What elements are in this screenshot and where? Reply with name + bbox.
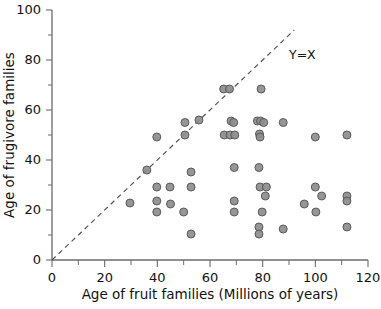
scatter-point [312, 208, 320, 216]
scatter-point [257, 85, 265, 93]
x-tick-label: 20 [96, 270, 113, 285]
scatter-point [187, 230, 195, 238]
x-tick-label: 100 [303, 270, 328, 285]
scatter-point [166, 183, 174, 191]
scatter-point [300, 200, 308, 208]
scatter-point [262, 183, 270, 191]
scatter-point [153, 183, 161, 191]
scatter-point [153, 208, 161, 216]
scatter-point [153, 197, 161, 205]
scatter-point [187, 168, 195, 176]
scatter-point [343, 223, 351, 231]
scatter-point [167, 200, 175, 208]
x-tick-label: 40 [149, 270, 166, 285]
x-tick-label: 120 [356, 270, 381, 285]
scatter-point [230, 164, 238, 172]
scatter-point [225, 85, 233, 93]
figure-background [0, 0, 381, 309]
scatter-point [187, 183, 195, 191]
scatter-point [195, 116, 203, 124]
scatter-point [311, 183, 319, 191]
x-axis-title: Age of fruit families (Millions of years… [82, 286, 339, 302]
scatter-point [256, 133, 264, 141]
scatter-point [258, 208, 266, 216]
scatter-point [181, 119, 189, 127]
scatter-point [126, 199, 134, 207]
scatter-point [230, 197, 238, 205]
scatter-point [231, 131, 239, 139]
scatter-point [279, 225, 287, 233]
y-tick-label: 40 [24, 152, 41, 167]
scatter-point [255, 164, 263, 172]
scatter-point [230, 208, 238, 216]
scatter-point [260, 119, 268, 127]
scatter-point [343, 197, 351, 205]
y-axis-title: Age of frugivore families [1, 52, 17, 218]
scatter-point [261, 192, 269, 200]
scatter-point [255, 230, 263, 238]
x-tick-label: 80 [254, 270, 271, 285]
scatter-point [181, 131, 189, 139]
y-tick-label: 60 [24, 102, 41, 117]
y-tick-label: 0 [33, 252, 41, 267]
scatter-plot-figure: 020406080100 020406080100120 Y=X Age of … [0, 0, 381, 309]
scatter-point [279, 119, 287, 127]
scatter-point [143, 166, 151, 174]
scatter-point [343, 131, 351, 139]
y-tick-label: 100 [16, 2, 41, 17]
reference-line-label: Y=X [288, 47, 316, 62]
y-tick-label: 20 [24, 202, 41, 217]
scatter-point [230, 119, 238, 127]
x-tick-label: 60 [202, 270, 219, 285]
scatter-point [311, 133, 319, 141]
scatter-point [180, 208, 188, 216]
scatter-point [318, 192, 326, 200]
scatter-point [153, 133, 161, 141]
y-tick-label: 80 [24, 52, 41, 67]
x-tick-label: 0 [48, 270, 56, 285]
